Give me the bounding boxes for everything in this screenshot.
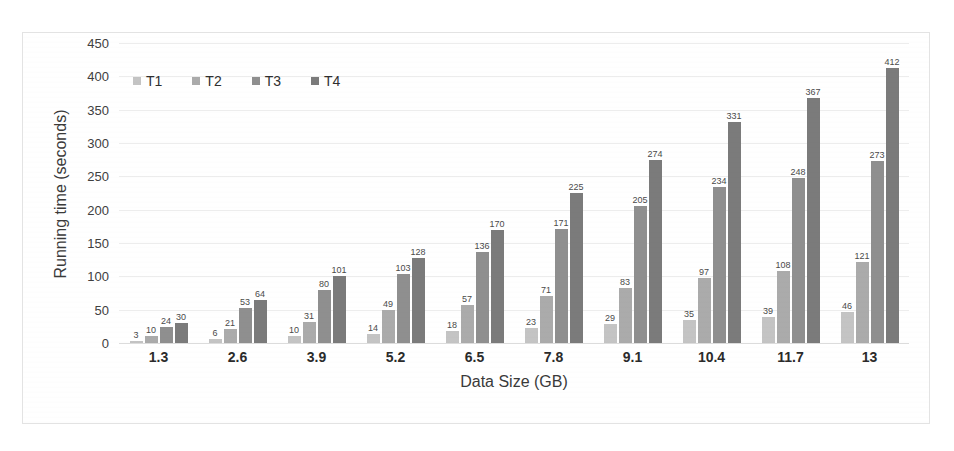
bar-value-label: 64 [255,290,265,299]
bar-t2[interactable]: 10 [145,43,158,343]
bar-t1[interactable]: 3 [130,43,143,343]
bar-rect [145,336,158,343]
bar-t4[interactable]: 170 [491,43,504,343]
bar-t4[interactable]: 64 [254,43,267,343]
x-axis-tick-label: 1.3 [119,349,198,365]
bar-t4[interactable]: 331 [728,43,741,343]
bar-t3[interactable]: 103 [397,43,410,343]
bar-t4[interactable]: 274 [649,43,662,343]
x-axis-tick-label: 7.8 [514,349,593,365]
bar-t3[interactable]: 205 [634,43,647,343]
bar-rect [777,271,790,343]
bar-t4[interactable]: 101 [333,43,346,343]
bar-t1[interactable]: 29 [604,43,617,343]
bar-t1[interactable]: 39 [762,43,775,343]
bar-t1[interactable]: 46 [841,43,854,343]
bar-t1[interactable]: 10 [288,43,301,343]
bar-value-label: 101 [331,266,346,275]
bar-value-label: 57 [462,295,472,304]
plot-area: 050100150200250300350400450 T1T2T3T4 310… [119,43,909,343]
bar-rect [698,278,711,343]
bar-rect [160,327,173,343]
bar-t4[interactable]: 128 [412,43,425,343]
bar-rect [303,322,316,343]
bar-value-label: 49 [383,300,393,309]
bar-rect [792,178,805,343]
bar-value-label: 10 [289,326,299,335]
bar-value-label: 128 [410,248,425,257]
bar-t1[interactable]: 14 [367,43,380,343]
bar-t1[interactable]: 18 [446,43,459,343]
bar-t3[interactable]: 171 [555,43,568,343]
bar-rect [333,276,346,343]
bar-value-label: 3 [133,331,138,340]
bar-t1[interactable]: 23 [525,43,538,343]
bar-rect [540,296,553,343]
bar-t2[interactable]: 121 [856,43,869,343]
bar-value-label: 31 [304,312,314,321]
bar-rect [649,160,662,343]
x-axis-tick-label: 3.9 [277,349,356,365]
bar-value-label: 108 [775,261,790,270]
bar-group: 1857136170 [435,43,514,343]
x-axis-tick-label: 10.4 [672,349,751,365]
bar-t4[interactable]: 30 [175,43,188,343]
bar-t3[interactable]: 273 [871,43,884,343]
bar-group: 1449103128 [356,43,435,343]
bar-value-label: 331 [726,112,741,121]
chart-figure: Running time (seconds) 05010015020025030… [22,32,930,424]
bar-rect [367,334,380,343]
y-axis-tick-label: 200 [53,202,109,217]
bar-t4[interactable]: 367 [807,43,820,343]
bar-rect [239,308,252,343]
bar-rect [525,328,538,343]
bar-t2[interactable]: 57 [461,43,474,343]
bar-rect [318,290,331,343]
bar-value-label: 248 [790,168,805,177]
bar-t1[interactable]: 6 [209,43,222,343]
bar-rect [224,329,237,343]
gridline [119,343,909,344]
bar-rect [619,288,632,343]
bar-t2[interactable]: 97 [698,43,711,343]
bar-t3[interactable]: 248 [792,43,805,343]
bar-t4[interactable]: 412 [886,43,899,343]
bar-t3[interactable]: 234 [713,43,726,343]
bar-value-label: 83 [620,278,630,287]
bar-rect [683,320,696,343]
bar-t2[interactable]: 108 [777,43,790,343]
bar-rect [555,229,568,343]
bar-t1[interactable]: 35 [683,43,696,343]
bar-value-label: 29 [605,314,615,323]
y-axis-tick-label: 350 [53,102,109,117]
x-axis-tick-label: 2.6 [198,349,277,365]
bar-value-label: 412 [884,58,899,67]
bar-t4[interactable]: 225 [570,43,583,343]
bar-t3[interactable]: 80 [318,43,331,343]
x-axis-tick-label: 11.7 [751,349,830,365]
bar-t2[interactable]: 71 [540,43,553,343]
bar-value-label: 121 [854,252,869,261]
bar-rect [856,262,869,343]
bar-t3[interactable]: 136 [476,43,489,343]
bar-value-label: 39 [763,307,773,316]
x-axis-ticks: 1.32.63.95.26.57.89.110.411.713 [119,349,909,365]
bar-value-label: 225 [568,183,583,192]
bar-value-label: 97 [699,268,709,277]
bar-value-label: 18 [447,321,457,330]
bar-t2[interactable]: 49 [382,43,395,343]
bar-rect [254,300,267,343]
bar-rect [130,341,143,343]
bar-t2[interactable]: 31 [303,43,316,343]
bar-rect [209,339,222,343]
bar-value-label: 23 [526,318,536,327]
bar-t2[interactable]: 21 [224,43,237,343]
bar-value-label: 71 [541,286,551,295]
bar-rect [288,336,301,343]
bar-t3[interactable]: 24 [160,43,173,343]
y-axis-tick-label: 0 [53,336,109,351]
bar-t3[interactable]: 53 [239,43,252,343]
bar-t2[interactable]: 83 [619,43,632,343]
y-axis-tick-label: 50 [53,302,109,317]
y-axis-tick-label: 450 [53,36,109,51]
